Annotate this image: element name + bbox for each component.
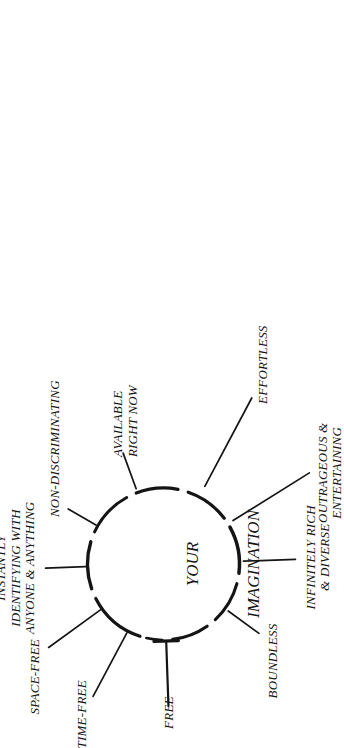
spoke-label-line: INSTANTLY [0, 502, 8, 634]
spoke-label-boundless: BOUNDLESS [265, 624, 280, 699]
spoke-label-line: EFFORTLESS [255, 325, 270, 404]
spoke-label-line: IDENTIFYING WITH [8, 502, 23, 634]
spoke-line-space-free [48, 610, 100, 648]
spoke-label-space-free: SPACE-FREE [27, 639, 42, 714]
spoke-label-line: RIGHT NOW [125, 385, 140, 457]
spoke-label-effortless: EFFORTLESS [255, 325, 270, 404]
spoke-label-line: FREE [161, 696, 176, 729]
spoke-label-infinitely-rich-diverse: INFINITELY RICH& DIVERSE [303, 505, 332, 609]
spoke-label-non-discriminating: NON-DISCRIMINATING [47, 380, 62, 517]
spoke-label-line: AVAILABLE [110, 385, 125, 457]
circle-arc-segment [94, 498, 126, 532]
circle-arc-segment [87, 542, 91, 589]
spoke-label-available-right-now: AVAILABLERIGHT NOW [110, 385, 139, 457]
spoke-label-line: ANYONE & ANYTHING [22, 502, 37, 634]
spoke-label-free: FREE [161, 696, 176, 729]
spoke-label-line: & DIVERSE [317, 505, 332, 609]
spoke-line-time-free [93, 633, 127, 697]
spoke-label-line: SPACE-FREE [27, 639, 42, 714]
center-label: YOUR IMAGINATION [141, 474, 304, 654]
spoke-label-line: INFINITELY RICH [303, 505, 318, 609]
center-label-line1: YOUR [182, 474, 202, 654]
spoke-line-available-right-now [123, 453, 136, 489]
circle-arc-segment [95, 599, 139, 637]
spoke-line-non-discriminating [68, 509, 96, 525]
spoke-label-time-free: TIME-FREE [74, 680, 89, 748]
spoke-label-line: BOUNDLESS [265, 624, 280, 699]
spoke-line-instantly-identifying [45, 567, 85, 568]
center-label-line2: IMAGINATION [243, 474, 263, 654]
spoke-label-line: NON-DISCRIMINATING [47, 380, 62, 517]
spoke-label-instantly-identifying: INSTANTLYIDENTIFYING WITHANYONE & ANYTHI… [0, 502, 37, 634]
spoke-label-line: TIME-FREE [74, 680, 89, 748]
